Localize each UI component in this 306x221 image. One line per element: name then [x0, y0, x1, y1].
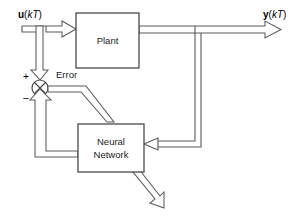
nn-right-input-arrowhead: [144, 138, 158, 150]
neural-network-block-label-line1: Neural: [97, 136, 125, 147]
plant-block-label: Plant: [97, 35, 119, 46]
error-signal-label: Error: [56, 69, 77, 80]
input-bus-left-cap: [22, 26, 36, 32]
plus-sign-label: +: [23, 71, 29, 82]
block-diagram-canvas: + – Plant Neural Network u(kT) y(kT) Err…: [0, 0, 306, 221]
minus-sign-label: –: [23, 92, 29, 103]
nn-feedback-to-junction: [30, 89, 78, 157]
input-bus-to-plant: [22, 21, 76, 37]
plant-output-bus: [139, 21, 281, 38]
neural-network-block-label-line2: Network: [94, 149, 129, 160]
input-signal-label: u(kT): [18, 9, 42, 20]
control-system-block-diagram: + – Plant Neural Network u(kT) y(kT) Err…: [0, 0, 306, 221]
plant-feedback-branch-down: [158, 26, 195, 141]
input-branch-to-junction: [31, 26, 48, 80]
output-signal-paren-close: ): [283, 9, 286, 20]
output-signal-label: y(kT): [263, 9, 286, 20]
input-signal-paren-close: ): [39, 9, 42, 20]
error-bus-to-neural-network: [48, 86, 114, 122]
nn-control-output-arrow: [133, 168, 164, 208]
